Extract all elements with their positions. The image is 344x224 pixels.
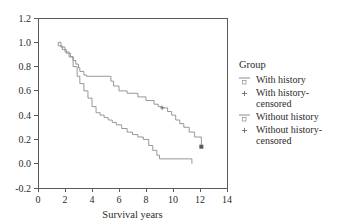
x-tick-label: 8 (144, 194, 149, 205)
y-tick-labels: -0.20.00.20.40.60.81.01.2 (15, 13, 31, 194)
legend-entry[interactable]: Without history-censored (242, 124, 322, 146)
legend-square-icon (243, 81, 247, 85)
y-tick-label: 0.0 (19, 158, 32, 169)
legend-entry-label: Without history-censored (256, 124, 322, 146)
y-tick-label: 1.0 (19, 37, 32, 48)
legend-entry-label: With history-censored (256, 87, 309, 109)
axes (38, 18, 227, 188)
y-tick-label: 1.2 (19, 13, 32, 24)
x-tick-label: 0 (36, 194, 41, 205)
axis-ticks (34, 18, 227, 192)
censored-markers (160, 106, 203, 149)
censored-end-marker (199, 145, 203, 149)
legend-entry[interactable]: Without history (239, 111, 319, 122)
legend: Group With historyWith history-censoredW… (239, 59, 322, 146)
x-tick-label: 14 (222, 194, 232, 205)
step-curve-with-history (58, 42, 201, 146)
legend-entries: With historyWith history-censoredWithout… (239, 74, 322, 146)
y-tick-label: -0.2 (15, 183, 31, 194)
step-curves (58, 42, 201, 163)
y-tick-label: 0.6 (19, 85, 32, 96)
x-tick-label: 6 (117, 194, 122, 205)
x-tick-label: 12 (195, 194, 205, 205)
x-tick-label: 10 (168, 194, 178, 205)
y-tick-label: 0.2 (19, 134, 32, 145)
legend-entry[interactable]: With history (239, 74, 306, 85)
legend-square-icon (243, 118, 247, 122)
legend-title: Group (239, 59, 266, 70)
x-tick-label: 4 (90, 194, 95, 205)
step-curve-without-history (58, 42, 192, 163)
y-tick-label: 0.4 (19, 110, 32, 121)
x-tick-labels: 02468101214 (36, 194, 233, 205)
y-tick-label: 0.8 (19, 61, 32, 72)
survival-plot-svg: 02468101214 -0.20.00.20.40.60.81.01.2 Su… (0, 0, 344, 224)
legend-entry[interactable]: With history-censored (242, 87, 309, 109)
survival-chart-figure: 02468101214 -0.20.00.20.40.60.81.01.2 Su… (0, 0, 344, 224)
x-axis-title: Survival years (102, 209, 162, 220)
x-tick-label: 2 (63, 194, 68, 205)
legend-entry-label: With history (256, 74, 306, 85)
legend-entry-label: Without history (256, 111, 319, 122)
